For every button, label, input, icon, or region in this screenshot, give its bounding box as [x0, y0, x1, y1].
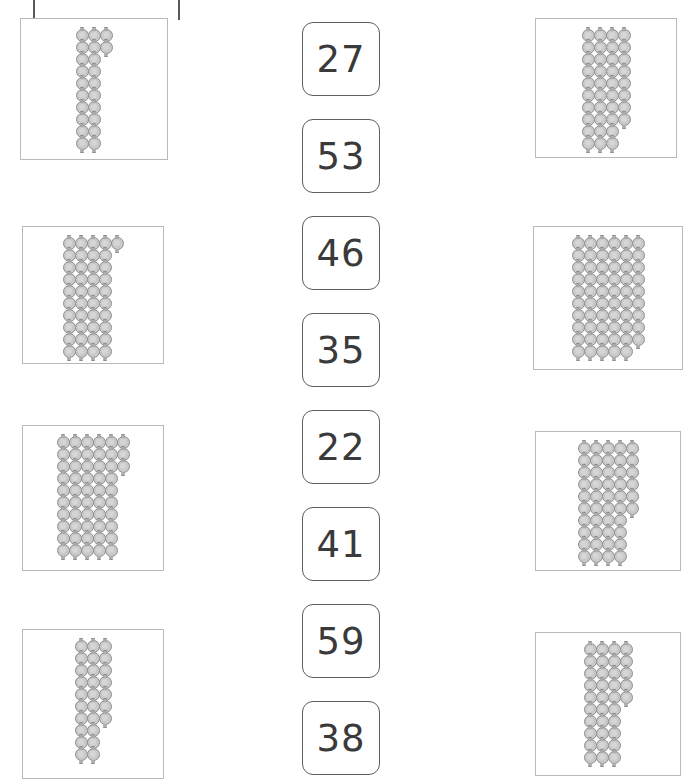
- bead-box-right-3[interactable]: [535, 431, 681, 571]
- bead-connector: [74, 556, 77, 560]
- bead: [626, 502, 639, 515]
- bead-column-4: [620, 643, 633, 704]
- bead-connector: [613, 357, 616, 361]
- number-card-label: 46: [316, 232, 365, 275]
- bead-column-3: [596, 237, 609, 358]
- bead-box-left-4[interactable]: [22, 629, 164, 779]
- bead: [608, 751, 621, 764]
- bead-connector: [577, 357, 580, 361]
- bead-column-1: [572, 237, 585, 358]
- bead-box-left-3[interactable]: [22, 425, 164, 571]
- bead-connector: [104, 724, 107, 728]
- number-card-label: 59: [316, 620, 365, 663]
- number-card-41[interactable]: 41: [302, 507, 380, 581]
- bead-connector: [105, 53, 108, 57]
- bead-connector: [589, 357, 592, 361]
- bead: [572, 345, 585, 358]
- bead-box-right-4[interactable]: [535, 632, 681, 776]
- bead: [596, 751, 609, 764]
- bead-box-left-1[interactable]: [20, 18, 168, 160]
- bead: [99, 712, 112, 725]
- number-card-35[interactable]: 35: [302, 313, 380, 387]
- number-card-38[interactable]: 38: [302, 701, 380, 775]
- bead-connector: [80, 760, 83, 764]
- bead-connector: [110, 556, 113, 560]
- bead-column-1: [584, 643, 597, 764]
- bead-connector: [625, 703, 628, 707]
- bead-column-3: [606, 29, 619, 150]
- bead-column-2: [87, 640, 100, 761]
- bead-connector: [80, 357, 83, 361]
- bead-connector: [607, 562, 610, 566]
- bead-chain-area: [534, 227, 682, 369]
- bead: [117, 460, 130, 473]
- bead-box-right-1[interactable]: [535, 18, 677, 158]
- bead-connector: [619, 562, 622, 566]
- bead-chain-area: [23, 426, 163, 570]
- bead-chain-46: [578, 442, 638, 563]
- number-card-53[interactable]: 53: [302, 119, 380, 193]
- bead-box-left-2[interactable]: [22, 226, 164, 364]
- bead-connector: [116, 249, 119, 253]
- worksheet-page: 2753463522415938: [0, 0, 697, 779]
- bead: [620, 345, 633, 358]
- bead-chain-area: [23, 227, 163, 363]
- bead: [590, 550, 603, 563]
- bead-connector: [613, 763, 616, 767]
- bead-connector: [92, 357, 95, 361]
- bead-column-3: [99, 640, 112, 725]
- bead-chain-area: [21, 19, 167, 159]
- bead-column-1: [76, 29, 89, 150]
- bead: [618, 113, 631, 126]
- bead-chain-area: [536, 633, 680, 775]
- number-card-label: 35: [316, 329, 365, 372]
- bead-column-4: [99, 237, 112, 358]
- bead: [63, 345, 76, 358]
- number-card-label: 27: [316, 38, 365, 81]
- bead-connector: [122, 472, 125, 476]
- number-card-27[interactable]: 27: [302, 22, 380, 96]
- bead: [606, 137, 619, 150]
- bead: [69, 544, 82, 557]
- bead-chain-27: [75, 640, 111, 761]
- bead: [75, 748, 88, 761]
- bead-column-4: [618, 29, 631, 126]
- number-card-22[interactable]: 22: [302, 410, 380, 484]
- bead-chain-22: [76, 29, 112, 150]
- bead-chain-area: [23, 630, 163, 778]
- bead: [608, 345, 621, 358]
- bead-chain-35: [584, 643, 632, 764]
- bead-box-right-2[interactable]: [533, 226, 683, 370]
- bead: [596, 345, 609, 358]
- bead: [105, 544, 118, 557]
- bead-column-5: [626, 442, 639, 515]
- bead-column-4: [608, 237, 621, 358]
- bead-column-5: [105, 436, 118, 557]
- bead: [93, 544, 106, 557]
- number-card-46[interactable]: 46: [302, 216, 380, 290]
- bead-column-3: [81, 436, 94, 557]
- bead-chain-38: [582, 29, 630, 150]
- bead: [87, 748, 100, 761]
- crop-tick-left: [33, 0, 35, 20]
- bead-connector: [92, 760, 95, 764]
- bead-chain-53: [57, 436, 129, 557]
- bead-connector: [637, 345, 640, 349]
- bead-connector: [625, 357, 628, 361]
- bead: [88, 137, 101, 150]
- number-card-label: 22: [316, 426, 365, 469]
- bead-connector: [595, 562, 598, 566]
- bead-connector: [93, 149, 96, 153]
- number-card-59[interactable]: 59: [302, 604, 380, 678]
- bead-column-2: [590, 442, 603, 563]
- bead: [584, 751, 597, 764]
- bead: [76, 137, 89, 150]
- bead-column-2: [75, 237, 88, 358]
- bead-column-5: [620, 237, 633, 358]
- bead-connector: [86, 556, 89, 560]
- bead: [614, 550, 627, 563]
- bead-column-5: [111, 237, 124, 250]
- bead: [111, 237, 124, 250]
- bead-column-6: [632, 237, 645, 346]
- bead: [75, 345, 88, 358]
